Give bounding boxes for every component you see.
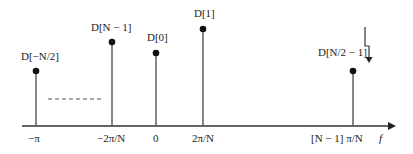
label-neg-half: D[−N/2]	[21, 50, 59, 62]
stem-neg-half	[33, 68, 40, 126]
label-half-minus-1: D[N/2 − 1]	[318, 46, 367, 58]
stem-n-minus-1	[109, 39, 116, 126]
stem-half-minus-1	[350, 68, 357, 126]
tick-2pi-n: 2π/N	[192, 132, 214, 144]
label-one: D[1]	[194, 7, 215, 19]
axis-label-f: f	[379, 132, 384, 144]
tick-zero: 0	[153, 132, 159, 144]
label-n-minus-1: D[N − 1]	[91, 21, 131, 33]
stem-one	[200, 26, 207, 126]
axis-arrowhead-icon	[388, 122, 396, 130]
tick-neg-pi: −π	[28, 132, 40, 144]
spectrum-diagram: D[−N/2] D[N − 1] D[0] D[1] D[N/2 − 1] −π…	[0, 0, 413, 154]
label-zero: D[0]	[147, 31, 168, 43]
tick-n-minus-1-pi-n: [N − 1] π/N	[311, 132, 363, 144]
tick-neg-2pi-n: −2π/N	[97, 132, 125, 144]
stem-zero	[153, 50, 160, 126]
